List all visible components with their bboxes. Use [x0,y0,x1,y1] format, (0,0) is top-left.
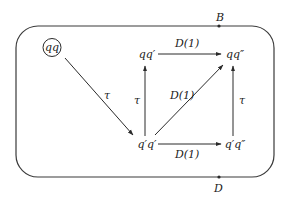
edge-label: τ [134,94,141,107]
edge-label: D(1) [174,148,199,161]
boundary-points: BD [213,11,224,195]
edge-label: τ [239,94,246,107]
state-node-qq1: qq′ [139,48,156,61]
edge-label: D(1) [169,89,194,102]
boundary-point-d-dot [217,175,220,178]
edge-label: τ [104,89,111,102]
boundary-point-b-dot [217,24,220,27]
state-node-q1q2: q′q″ [225,138,247,151]
state-node-qq2: qq″ [226,48,245,61]
boundary-point-d-label: D [213,182,223,195]
diagram-canvas: BD τττD(1)D(1)D(1) qqqq′qq″q′q′q′q″ [0,0,289,198]
boundary-point-b-label: B [215,11,224,24]
edge-qq-to-q1q1 [65,58,133,135]
state-node-q1q1: q′q′ [137,138,157,151]
edge-label: D(1) [174,37,199,50]
state-node-qq: qq [45,41,59,54]
